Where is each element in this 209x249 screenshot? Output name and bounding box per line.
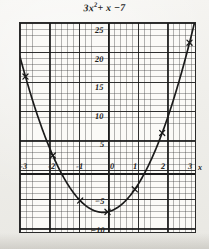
x-tick-label-3: 3	[188, 162, 192, 171]
y-tick-label--5: −5	[95, 197, 105, 206]
x-tick-label-1: 1	[133, 162, 137, 171]
data-point-marker	[78, 198, 83, 203]
curve-path	[20, 23, 195, 212]
y-tick-label-5: 5	[99, 140, 103, 149]
y-tick-label--10: −10	[91, 225, 105, 234]
x-tick-label-0: 0	[110, 162, 114, 171]
x-tick-label--3: -3	[20, 162, 27, 171]
data-point-marker	[132, 187, 137, 192]
x-tick-label--1: -1	[76, 162, 83, 171]
parabola-curve	[20, 23, 195, 232]
y-tick-label-10: 10	[95, 111, 104, 120]
y-tick-label-25: 25	[95, 26, 104, 35]
figure-root: 3x2+ x −7 -3-2-10123−10−5510152025x	[0, 0, 209, 249]
x-tick-label--2: -2	[48, 162, 55, 171]
chart-title-text: 3x2+ x −7	[84, 2, 126, 13]
chart-title: 3x2+ x −7	[0, 0, 209, 14]
plot-area	[19, 22, 196, 233]
y-tick-label-15: 15	[95, 83, 104, 92]
x-axis-label: x	[198, 163, 202, 172]
x-tick-label-2: 2	[161, 162, 165, 171]
y-tick-label-20: 20	[95, 54, 104, 63]
